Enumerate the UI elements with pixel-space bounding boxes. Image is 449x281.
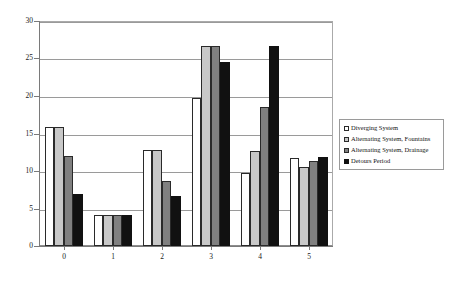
legend-label: Diverging System bbox=[351, 124, 398, 132]
bar bbox=[64, 156, 74, 246]
y-axis-label: 25 bbox=[5, 54, 33, 62]
bar bbox=[94, 215, 104, 246]
bar bbox=[290, 158, 300, 246]
x-axis-tick bbox=[162, 246, 163, 250]
legend-swatch-icon bbox=[344, 159, 349, 164]
x-axis-label: 1 bbox=[103, 252, 123, 261]
y-axis-label-wrap: 5 bbox=[0, 205, 33, 213]
bar bbox=[162, 181, 172, 246]
legend-item[interactable]: Alternating System, Drainage bbox=[344, 145, 440, 155]
x-axis-tick bbox=[211, 246, 212, 250]
legend-item[interactable]: Alternating System, Fountains bbox=[344, 134, 440, 144]
bar bbox=[152, 150, 162, 246]
y-axis-label-wrap: 15 bbox=[0, 130, 33, 138]
y-axis-label: 10 bbox=[5, 167, 33, 175]
bar bbox=[171, 196, 181, 246]
y-axis-label: 5 bbox=[5, 205, 33, 213]
bar bbox=[220, 62, 230, 247]
x-axis-tick bbox=[260, 246, 261, 250]
y-axis-label: 30 bbox=[5, 17, 33, 25]
bar bbox=[113, 215, 123, 246]
legend-item[interactable]: Diverging System bbox=[344, 123, 440, 133]
bar bbox=[309, 161, 319, 246]
legend-swatch-icon bbox=[344, 137, 349, 142]
y-axis-label-wrap: 25 bbox=[0, 54, 33, 62]
bar bbox=[103, 215, 113, 246]
y-axis-label: 20 bbox=[5, 92, 33, 100]
bar bbox=[241, 173, 251, 247]
y-axis-label: 0 bbox=[5, 242, 33, 250]
legend-item[interactable]: Detours Period bbox=[344, 156, 440, 166]
bar bbox=[54, 127, 64, 246]
bars-layer bbox=[39, 21, 333, 246]
x-axis-tick bbox=[113, 246, 114, 250]
x-axis-label: 3 bbox=[201, 252, 221, 261]
bar bbox=[250, 151, 260, 246]
bar bbox=[201, 46, 211, 246]
bar bbox=[143, 150, 153, 246]
bar bbox=[269, 46, 279, 246]
bar bbox=[45, 127, 55, 246]
legend-swatch-icon bbox=[344, 126, 349, 131]
legend-label: Alternating System, Drainage bbox=[351, 146, 428, 154]
bar bbox=[211, 46, 221, 246]
y-axis-label-wrap: 0 bbox=[0, 242, 33, 250]
legend-label: Alternating System, Fountains bbox=[351, 135, 430, 143]
bar bbox=[122, 215, 132, 246]
legend-label: Detours Period bbox=[351, 157, 390, 165]
bar bbox=[318, 157, 328, 246]
bar-chart: 051015202530 012345 Diverging SystemAlte… bbox=[0, 0, 449, 281]
y-axis-label: 15 bbox=[5, 130, 33, 138]
bar bbox=[260, 107, 270, 247]
chart-legend: Diverging SystemAlternating System, Foun… bbox=[339, 119, 444, 170]
x-axis-label: 2 bbox=[152, 252, 172, 261]
bar bbox=[73, 194, 83, 247]
y-axis-label-wrap: 30 bbox=[0, 17, 33, 25]
bar bbox=[192, 98, 202, 247]
legend-swatch-icon bbox=[344, 148, 349, 153]
x-axis-label: 4 bbox=[250, 252, 270, 261]
x-axis-label: 0 bbox=[54, 252, 74, 261]
x-axis-line bbox=[39, 246, 333, 247]
x-axis-label: 5 bbox=[299, 252, 319, 261]
y-axis-label-wrap: 20 bbox=[0, 92, 33, 100]
x-axis-tick bbox=[64, 246, 65, 250]
bar bbox=[299, 167, 309, 247]
y-axis-label-wrap: 10 bbox=[0, 167, 33, 175]
x-axis-tick bbox=[309, 246, 310, 250]
